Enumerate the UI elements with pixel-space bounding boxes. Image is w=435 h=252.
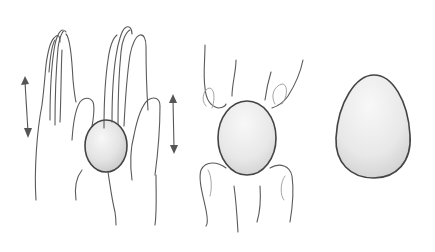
egg-shape	[336, 75, 410, 178]
up-down-arrow-left	[21, 76, 32, 138]
panel-finished-egg-shape	[336, 75, 410, 178]
panel-rolling-between-palms	[21, 27, 178, 225]
left-hand	[35, 30, 94, 200]
upper-fingers	[203, 45, 303, 108]
ball-egg-shaping	[218, 101, 276, 175]
panel-shaping-between-fingers	[200, 45, 303, 232]
ball-round	[85, 120, 127, 172]
illustration	[0, 0, 435, 252]
up-down-arrow-right	[169, 94, 178, 154]
